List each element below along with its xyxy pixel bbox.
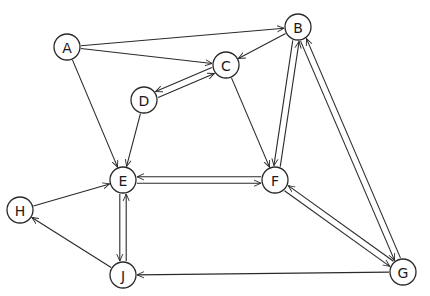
edge-b-to-c <box>238 34 285 59</box>
node-j: J <box>110 262 136 288</box>
directed-graph: ABCDEFGHJ <box>0 0 430 296</box>
node-label: F <box>271 173 279 189</box>
edge-a-to-b <box>81 28 284 46</box>
edge-a-to-e <box>72 60 117 167</box>
node-e: E <box>110 167 136 193</box>
edge-b-to-g <box>301 41 395 260</box>
node-label: A <box>62 40 72 56</box>
edge-d-to-c <box>158 73 214 97</box>
node-label: D <box>139 93 150 109</box>
node-d: D <box>131 87 157 113</box>
node-label: C <box>221 58 231 74</box>
node-c: C <box>213 52 239 78</box>
edge-h-to-e <box>33 184 109 206</box>
edge-g-to-b <box>306 39 400 258</box>
node-label: E <box>119 173 128 189</box>
node-label: H <box>15 203 26 219</box>
node-f: F <box>262 167 288 193</box>
edge-g-to-f <box>288 186 393 262</box>
node-b: B <box>285 14 311 40</box>
node-label: G <box>398 265 409 281</box>
edge-c-to-f <box>231 78 269 167</box>
edge-a-to-c <box>81 49 212 64</box>
edge-d-to-e <box>127 114 141 167</box>
edge-f-to-g <box>285 191 390 267</box>
edge-g-to-j <box>137 272 389 275</box>
node-h: H <box>7 197 33 223</box>
node-label: J <box>120 268 125 284</box>
node-label: B <box>293 20 303 36</box>
node-g: G <box>390 259 416 285</box>
edge-j-to-h <box>32 217 111 267</box>
edge-c-to-d <box>156 68 212 92</box>
node-a: A <box>54 34 80 60</box>
